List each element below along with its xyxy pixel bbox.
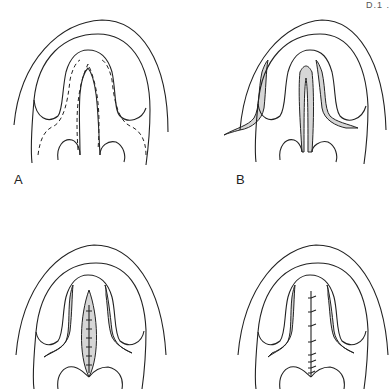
panel-d <box>196 195 392 389</box>
panel-label-a: A <box>14 172 23 187</box>
panel-b: B <box>196 0 392 195</box>
palate-diagram-b <box>196 0 392 195</box>
palate-diagram-a <box>0 0 196 195</box>
palate-diagram-d <box>196 195 392 389</box>
panel-label-b: B <box>236 172 245 187</box>
palate-diagram-c <box>0 195 196 389</box>
panel-c <box>0 195 196 389</box>
panel-a: A <box>0 0 196 195</box>
